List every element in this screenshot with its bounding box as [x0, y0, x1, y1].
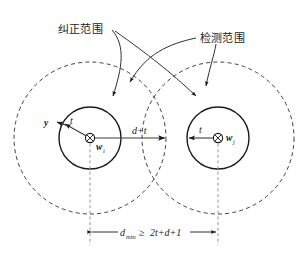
detection-range-label: 检测范围 — [200, 31, 245, 45]
dplust-label: d+t — [132, 125, 147, 136]
right-w-symbol: w — [226, 133, 233, 143]
leader-detection-to-left — [130, 38, 196, 82]
left-w-subscript: i — [103, 147, 105, 154]
leader-correction-to-left — [112, 30, 121, 96]
right-center-label: w j — [226, 133, 235, 145]
node-glyph-right — [213, 133, 222, 142]
diagram-svg: 纠正范围 检测范围 y t w i d+t t w j d min ≥ 2t+d… — [0, 0, 307, 255]
left-w-symbol: w — [96, 142, 103, 152]
right-t-label: t — [199, 124, 202, 135]
left-t-label: t — [70, 115, 73, 126]
left-y-label: y — [43, 118, 49, 128]
correction-range-label: 纠正范围 — [58, 22, 103, 36]
node-glyph-left — [85, 133, 94, 142]
left-center-label: w i — [96, 142, 105, 154]
dimension-label: d min ≥ 2t+d+1 — [120, 227, 181, 240]
dimension-subscript: min — [126, 233, 136, 240]
diagram-canvas: 纠正范围 检测范围 y t w i d+t t w j d min ≥ 2t+d… — [0, 0, 307, 255]
leader-detection-to-right — [206, 44, 216, 86]
dimension-expression: 2t+d+1 — [150, 227, 181, 238]
dimension-relation: ≥ — [139, 227, 145, 238]
right-w-subscript: j — [232, 138, 235, 145]
